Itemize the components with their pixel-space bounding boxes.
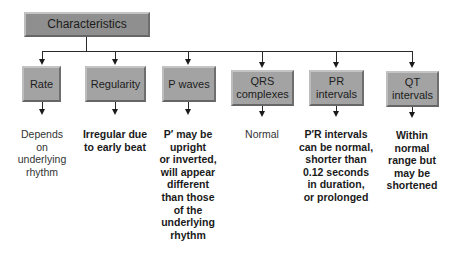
qrs-description: Normal: [232, 128, 292, 141]
p-waves-description: P′ may be upright or inverted, will appe…: [148, 128, 228, 241]
pr-intervals-box: PR intervals: [309, 70, 364, 106]
rate-label: Rate: [30, 78, 53, 91]
regularity-description: Irregular due to early beat: [70, 128, 160, 153]
characteristics-box: Characteristics: [24, 12, 150, 37]
qt-description: Within normal range but may be shortened: [372, 129, 451, 192]
horizontal-connector-line: [42, 51, 413, 52]
regularity-label: Regularity: [91, 78, 141, 91]
regularity-box: Regularity: [85, 66, 146, 102]
arrow-down-icon: [259, 111, 265, 117]
arrow-down-icon: [259, 62, 265, 68]
arrow-down-icon: [39, 59, 45, 65]
arrow-down-icon: [112, 109, 118, 115]
pr-label: PR intervals: [316, 75, 357, 101]
p-waves-label: P waves: [168, 78, 209, 91]
arrow-down-icon: [333, 111, 339, 117]
qt-label: QT intervals: [392, 76, 433, 102]
arrow-down-icon: [409, 62, 415, 68]
arrow-down-icon: [112, 59, 118, 65]
root-stem-line: [86, 37, 87, 51]
arrow-down-icon: [39, 109, 45, 115]
arrow-down-icon: [185, 109, 191, 115]
p-waves-box: P waves: [162, 66, 216, 102]
rate-box: Rate: [22, 66, 61, 102]
arrow-down-icon: [333, 62, 339, 68]
qrs-label: QRS complexes: [236, 75, 289, 101]
qt-intervals-box: QT intervals: [386, 71, 439, 107]
characteristics-label: Characteristics: [47, 18, 126, 31]
qrs-complexes-box: QRS complexes: [231, 70, 294, 106]
pr-description: P′R intervals can be normal, shorter tha…: [290, 128, 382, 204]
arrow-down-icon: [185, 59, 191, 65]
arrow-down-icon: [409, 112, 415, 118]
